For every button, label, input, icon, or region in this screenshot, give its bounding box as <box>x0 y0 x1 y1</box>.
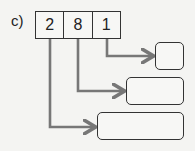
arrow-ones <box>107 39 151 56</box>
answer-box-tens[interactable] <box>126 77 184 105</box>
answer-box-ones[interactable] <box>155 42 184 70</box>
arrow-hundreds <box>50 39 93 127</box>
arrow-tens <box>78 39 122 91</box>
answer-box-hundreds[interactable] <box>97 112 184 140</box>
